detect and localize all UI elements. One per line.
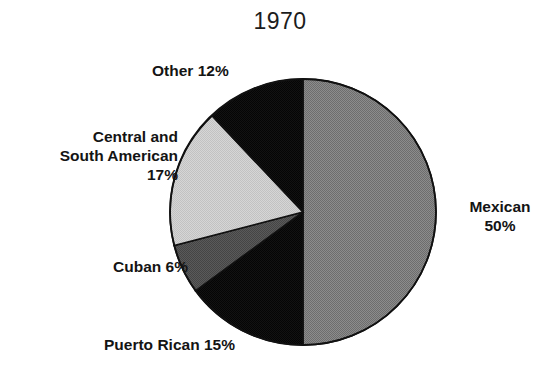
pie-slice-mexican <box>303 79 436 345</box>
pie-label-other: Other 12% <box>152 62 272 81</box>
pie-label-mexican: Mexican 50% <box>452 198 548 236</box>
pie-label-central-south-american: Central and South American 17% <box>26 128 178 185</box>
pie-chart-graphic <box>0 0 560 380</box>
pie-label-cuban: Cuban 6% <box>82 258 188 277</box>
pie-chart-figure: 1970 <box>0 0 560 380</box>
pie-label-puerto-rican: Puerto Rican 15% <box>104 336 280 355</box>
